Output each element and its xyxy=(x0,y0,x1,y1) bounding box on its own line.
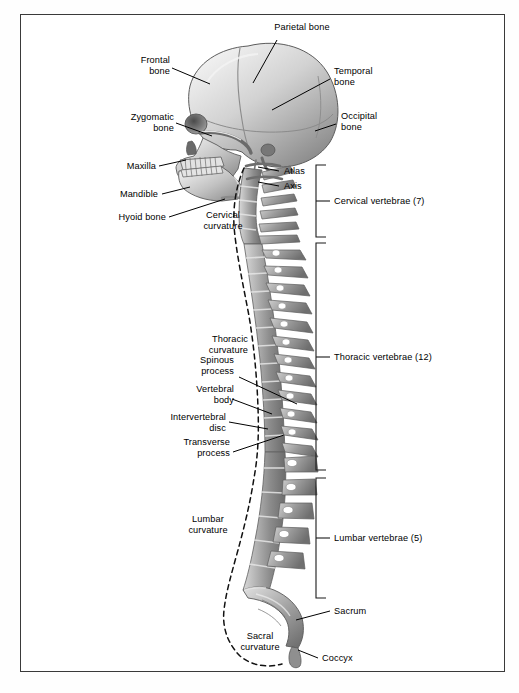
label-sacral-curvature: Sacral curvature xyxy=(228,631,292,652)
label-sacrum: Sacrum xyxy=(334,606,394,617)
skeleton-illustration xyxy=(0,0,519,693)
label-coccyx: Coccyx xyxy=(322,653,382,664)
bracket-label-thoracic: Thoracic vertebrae (12) xyxy=(334,352,484,363)
label-temporal-bone: Temporal bone xyxy=(334,66,414,87)
label-zygomatic-bone: Zygomatic bone xyxy=(96,112,174,133)
label-atlas: Atlas xyxy=(284,166,328,177)
label-mandible: Mandible xyxy=(96,189,158,200)
label-transverse-process: Transverse process xyxy=(156,437,230,458)
label-occipital-bone: Occipital bone xyxy=(341,111,421,132)
label-cervical-curvature: Cervical curvature xyxy=(192,210,254,231)
label-intervertebral-disc: Intervertebral disc xyxy=(148,412,226,433)
label-spinous-process: Spinous process xyxy=(168,355,234,376)
label-frontal-bone: Frontal bone xyxy=(98,55,170,76)
label-thoracic-curvature: Thoracic curvature xyxy=(186,334,248,355)
bracket-lines xyxy=(316,165,330,598)
bracket-label-lumbar: Lumbar vertebrae (5) xyxy=(334,533,484,544)
label-parietal-bone: Parietal bone xyxy=(252,22,352,33)
bracket-label-cervical: Cervical vertebrae (7) xyxy=(334,196,484,207)
label-maxilla: Maxilla xyxy=(100,161,156,172)
anatomy-figure: Parietal bone Frontal bone Temporal bone… xyxy=(0,0,519,693)
label-hyoid-bone: Hyoid bone xyxy=(96,212,166,223)
label-axis: Axis xyxy=(284,181,328,192)
vertebral-column-group xyxy=(239,164,318,668)
label-vertebral-body: Vertebral body xyxy=(168,384,234,405)
label-lumbar-curvature: Lumbar curvature xyxy=(174,514,242,535)
